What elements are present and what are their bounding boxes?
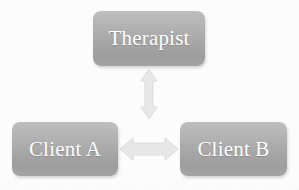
node-client-a-label: Client A — [29, 139, 101, 160]
node-client-a[interactable]: Client A — [12, 122, 118, 176]
double-arrow-horizontal-icon — [119, 137, 179, 161]
node-client-b[interactable]: Client B — [180, 122, 287, 176]
node-client-b-label: Client B — [197, 139, 269, 160]
double-arrow-vertical-icon — [138, 68, 160, 120]
relationship-diagram: Therapist Client A Client B — [0, 0, 299, 190]
node-therapist-label: Therapist — [108, 28, 189, 49]
node-therapist[interactable]: Therapist — [93, 11, 205, 66]
